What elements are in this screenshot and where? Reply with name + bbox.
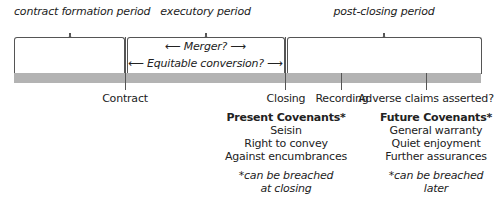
note-line: *can be breached bbox=[225, 169, 347, 182]
note-line: later bbox=[380, 182, 492, 195]
bracket-post-closing bbox=[287, 37, 482, 74]
covenant-item: General warranty bbox=[380, 124, 492, 137]
future-covenants-title: Future Covenants* bbox=[380, 111, 492, 124]
note-line: *can be breached bbox=[380, 169, 492, 182]
event-label-closing: Closing bbox=[267, 92, 306, 105]
period-label-contract-formation: contract formation period bbox=[14, 5, 124, 18]
period-label-post-closing: post-closing period bbox=[287, 5, 481, 18]
note-line: at closing bbox=[225, 182, 347, 195]
present-covenants-note: *can be breached at closing bbox=[225, 169, 347, 195]
event-label-adverse-claims: Adverse claims asserted? bbox=[358, 92, 494, 105]
merger-label: Merger? bbox=[184, 40, 228, 53]
equitable-conversion-label: Equitable conversion? bbox=[147, 57, 264, 70]
tick-adverse-claims bbox=[426, 73, 427, 90]
bracket-notch bbox=[67, 33, 73, 38]
merger-note: ⟵ Merger? ⟶ bbox=[127, 40, 284, 53]
tick-contract bbox=[125, 37, 126, 90]
arrow-right-icon: ⟶ bbox=[231, 40, 247, 53]
equitable-conversion-note: ⟵ Equitable conversion? ⟶ bbox=[127, 57, 284, 70]
present-covenants: Present Covenants* Seisin Right to conve… bbox=[225, 111, 347, 195]
arrow-left-icon: ⟵ bbox=[128, 57, 144, 70]
timeline-bar bbox=[14, 73, 481, 83]
covenant-item: Quiet enjoyment bbox=[380, 137, 492, 150]
bracket-contract-formation bbox=[14, 37, 125, 74]
bracket-notch bbox=[381, 33, 387, 38]
bracket-notch bbox=[203, 33, 209, 38]
covenant-item: Right to convey bbox=[225, 137, 347, 150]
arrow-left-icon: ⟵ bbox=[165, 40, 181, 53]
covenant-item: Against encumbrances bbox=[225, 150, 347, 163]
tick-closing bbox=[285, 37, 286, 90]
arrow-right-icon: ⟶ bbox=[267, 57, 283, 70]
future-covenants: Future Covenants* General warranty Quiet… bbox=[380, 111, 492, 195]
period-label-executory: executory period bbox=[127, 5, 284, 18]
future-covenants-note: *can be breached later bbox=[380, 169, 492, 195]
covenant-item: Further assurances bbox=[380, 150, 492, 163]
present-covenants-title: Present Covenants* bbox=[225, 111, 347, 124]
event-label-contract: Contract bbox=[102, 92, 148, 105]
tick-recording bbox=[341, 73, 342, 90]
covenant-item: Seisin bbox=[225, 124, 347, 137]
